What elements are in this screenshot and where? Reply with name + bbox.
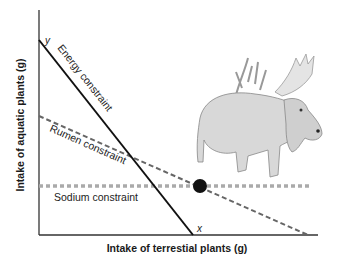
diet-constraint-diagram: y x Energy constraint Rumen constraint S… — [0, 0, 341, 267]
y-intercept-label: y — [44, 35, 51, 46]
x-intercept-label: x — [196, 223, 203, 234]
moose-antler-left — [236, 58, 266, 95]
energy-constraint-label: Energy constraint — [55, 42, 115, 114]
moose-antler-right — [275, 54, 314, 96]
y-axis-title: Intake of aquatic plants (g) — [14, 58, 26, 191]
rumen-constraint-label: Rumen constraint — [48, 122, 128, 166]
moose-head — [284, 98, 322, 152]
optimum-point — [193, 179, 207, 193]
moose-nostril — [316, 129, 320, 133]
x-axis-title: Intake of terrestial plants (g) — [107, 242, 248, 254]
moose-illustration — [197, 54, 322, 177]
sodium-constraint-label: Sodium constraint — [54, 191, 138, 203]
moose-eye — [300, 109, 303, 112]
